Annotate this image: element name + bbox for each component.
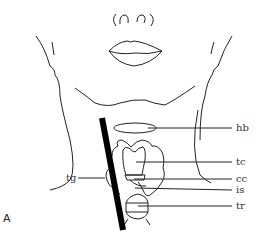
panel-label: A (3, 212, 11, 225)
isthmus (130, 180, 146, 186)
label-tr: tr (236, 200, 245, 211)
neck-anatomy-diagram: hb tc cc is tr tg A (0, 0, 266, 243)
thyroid-cartilage (123, 147, 145, 175)
nose-outline (114, 14, 154, 26)
lips-outline (109, 41, 162, 66)
label-cc: cc (236, 173, 248, 184)
chin-outline (75, 86, 195, 106)
right-neck-outline (200, 36, 232, 140)
trachea (124, 194, 150, 225)
label-tg: tg (66, 172, 77, 183)
ultrasound-probe (102, 118, 123, 230)
leader-lines (78, 128, 232, 206)
right-neck-curve (194, 110, 211, 183)
label-is: is (236, 184, 244, 195)
label-tc: tc (236, 156, 246, 167)
left-neck-outline (36, 36, 73, 190)
label-hb: hb (236, 122, 249, 133)
